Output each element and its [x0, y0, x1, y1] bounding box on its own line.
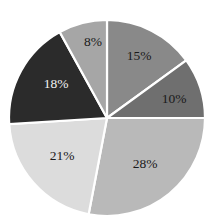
- pie-slice-label: 15%: [127, 48, 152, 63]
- pie-slice-label: 28%: [133, 156, 158, 171]
- pie-slice-group: [9, 20, 205, 216]
- pie-slice-label: 18%: [44, 76, 69, 91]
- pie-chart-figure: 15%10%28%21%18%8%: [0, 0, 212, 224]
- pie-slice[interactable]: [9, 118, 107, 214]
- pie-slice-label: 8%: [84, 34, 102, 49]
- pie-chart-canvas: 15%10%28%21%18%8%: [0, 0, 212, 224]
- pie-slice-label: 21%: [50, 148, 75, 163]
- pie-slice-label: 10%: [162, 91, 187, 106]
